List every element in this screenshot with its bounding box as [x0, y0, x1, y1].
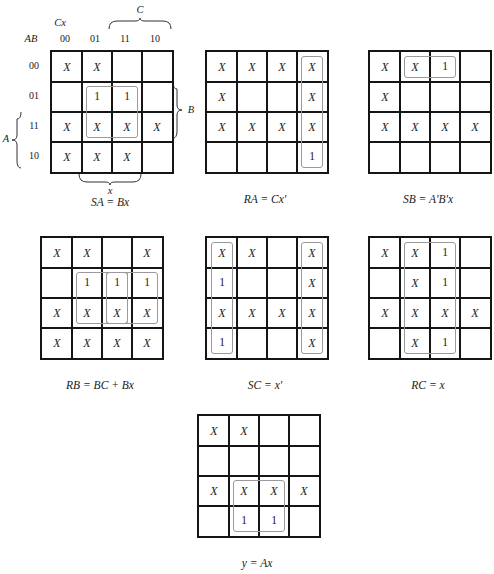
kmap-cell: X [207, 298, 237, 328]
kmap-cell: X [259, 476, 289, 506]
kmap-cell: X [42, 238, 72, 268]
kmap-cell: X [102, 328, 132, 358]
kmap-cell: X [297, 82, 327, 112]
brace-x [78, 173, 142, 185]
kmap-cell: X [112, 142, 142, 172]
kmap-cell: X [297, 268, 327, 298]
kmap-cell: X [199, 416, 229, 446]
kmap-cell: X [370, 112, 400, 142]
kmap-cell: 1 [207, 268, 237, 298]
kmap-cell: X [207, 82, 237, 112]
kmap-cell [142, 52, 172, 82]
kmap-cell: X [42, 298, 72, 328]
kmap-cell [112, 52, 142, 82]
kmap-cell: 1 [430, 328, 460, 358]
kmap-cell: X [72, 298, 102, 328]
col-label-11: 11 [110, 33, 140, 44]
kmap-cell [259, 446, 289, 476]
kmap-cell [199, 446, 229, 476]
kmap-cell: X [42, 328, 72, 358]
kmap-cell [259, 416, 289, 446]
kmap-cell [237, 142, 267, 172]
kmap-cell: X [297, 238, 327, 268]
kmap-cell [400, 142, 430, 172]
kmap-cell [142, 82, 172, 112]
kmap-caption-ra: RA = Cx' [205, 193, 325, 205]
side-var-label: AB [20, 33, 42, 44]
kmap-cell: X [207, 52, 237, 82]
kmap-cell: X [237, 298, 267, 328]
kmap-caption-y: y = Ax [197, 557, 317, 569]
kmap-grid-sa: XX11XXXXXXX [50, 50, 174, 174]
row-label-10: 10 [22, 150, 46, 161]
kmap-cell: X [370, 82, 400, 112]
kmap-cell [460, 82, 490, 112]
kmap-cell: X [237, 52, 267, 82]
kmap-cell [400, 82, 430, 112]
kmap-ra: XXXXXXXXXX1 RA = Cx' [205, 50, 335, 210]
kmap-cell: 1 [82, 82, 112, 112]
row-label-00: 00 [22, 60, 46, 71]
kmap-cell: X [207, 112, 237, 142]
kmap-caption-sb: SB = A'B'x [368, 193, 488, 205]
col-label-01: 01 [80, 33, 110, 44]
kmap-cell: X [400, 328, 430, 358]
kmap-caption-rb: RB = BC + Bx [32, 379, 168, 391]
kmap-cell: X [297, 52, 327, 82]
kmap-cell: X [460, 298, 490, 328]
kmap-y: XXXXXX11 y = Ax [197, 414, 327, 574]
kmap-cell: X [82, 112, 112, 142]
kmap-cell: X [132, 238, 162, 268]
col-label-10: 10 [140, 33, 170, 44]
kmap-cell [460, 52, 490, 82]
kmap-cell: X [297, 298, 327, 328]
kmap-cell [460, 268, 490, 298]
kmap-cell: X [102, 298, 132, 328]
row-label-11: 11 [22, 120, 46, 131]
kmap-cell [142, 142, 172, 172]
kmap-cell [289, 446, 319, 476]
kmap-rc: XX1X1XXXXX1 RC = x [368, 236, 494, 396]
kmap-caption-sa: SA = Bx [50, 196, 170, 208]
kmap-cell: X [370, 298, 400, 328]
kmap-grid-y: XXXXXX11 [197, 414, 321, 538]
kmap-grid-ra: XXXXXXXXXX1 [205, 50, 329, 174]
kmap-cell: X [400, 268, 430, 298]
kmap-cell [237, 328, 267, 358]
kmap-cell [102, 238, 132, 268]
kmap-cell: X [229, 476, 259, 506]
col-label-00: 00 [50, 33, 80, 44]
kmap-cell: 1 [112, 82, 142, 112]
brace-x-label: x [86, 185, 134, 196]
kmap-cell [460, 238, 490, 268]
kmap-cell: X [132, 298, 162, 328]
kmap-cell: 1 [259, 506, 289, 536]
kmap-cell: X [72, 328, 102, 358]
top-var-label: Cx [48, 17, 72, 28]
kmap-cell: X [370, 238, 400, 268]
kmap-cell [267, 142, 297, 172]
kmap-cell: X [400, 112, 430, 142]
kmap-cell: 1 [430, 268, 460, 298]
kmap-cell: X [52, 142, 82, 172]
kmap-cell: X [82, 52, 112, 82]
kmap-cell: X [289, 476, 319, 506]
kmap-cell: X [297, 112, 327, 142]
kmap-caption-rc: RC = x [368, 379, 488, 391]
kmap-cell: X [52, 112, 82, 142]
brace-c-label: C [128, 4, 152, 15]
kmap-cell [267, 238, 297, 268]
kmap-cell: X [72, 238, 102, 268]
kmap-cell: 1 [207, 328, 237, 358]
kmap-cell: X [400, 238, 430, 268]
kmap-cell [267, 328, 297, 358]
kmap-cell [267, 268, 297, 298]
kmap-grid-rc: XX1X1XXXXX1 [368, 236, 492, 360]
kmap-cell: 1 [132, 268, 162, 298]
kmap-cell: X [52, 52, 82, 82]
kmap-cell: X [267, 52, 297, 82]
kmap-cell: X [267, 298, 297, 328]
kmap-grid-rb: XXX111XXXXXXXX [40, 236, 164, 360]
kmap-cell [370, 328, 400, 358]
kmap-cell [430, 82, 460, 112]
